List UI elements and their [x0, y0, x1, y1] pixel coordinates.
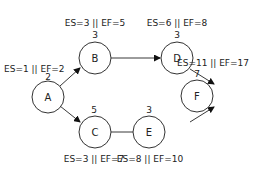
node-b-duration: 3	[92, 30, 98, 40]
node-f-es-ef: ES=11 || EF=17	[177, 58, 249, 68]
node-c-label: C	[92, 127, 99, 138]
node-c-duration: 5	[91, 105, 97, 115]
node-d-duration: 3	[174, 30, 180, 40]
node-e-duration: 3	[146, 105, 152, 115]
node-e-label: E	[146, 127, 152, 138]
network-diagram: ES=1 || EF=2 2 A ES=3 || EF=5 3 B ES=6 |…	[0, 0, 258, 170]
node-f-label: F	[194, 91, 200, 102]
node-b: ES=3 || EF=5 3 B	[65, 18, 126, 74]
node-a: ES=1 || EF=2 2 A	[4, 64, 65, 113]
node-d-es-ef: ES=6 || EF=8	[147, 18, 208, 28]
node-b-label: B	[92, 53, 99, 64]
node-e: 3 E ES=8 || EF=10	[117, 105, 184, 164]
node-a-es-ef: ES=1 || EF=2	[4, 64, 65, 74]
edge-a-c	[60, 106, 80, 122]
node-e-es-ef: ES=8 || EF=10	[117, 154, 184, 164]
node-f: ES=11 || EF=17 7 F	[177, 58, 249, 112]
node-c-es-ef: ES=3 || EF=7	[64, 154, 125, 164]
node-b-es-ef: ES=3 || EF=5	[65, 18, 126, 28]
node-a-label: A	[45, 92, 52, 103]
node-f-duration: 7	[194, 69, 200, 79]
node-c: 5 C ES=3 || EF=7	[64, 105, 125, 164]
